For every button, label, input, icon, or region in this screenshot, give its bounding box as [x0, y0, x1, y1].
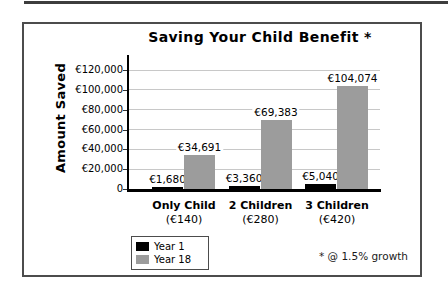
category-label: Only Child(€140) [152, 199, 215, 227]
y-tick-label: €120,000 [24, 64, 123, 76]
category-name: Only Child [152, 199, 215, 213]
y-tick-label: 0 [24, 183, 123, 195]
category-sublabel: (€140) [152, 213, 215, 227]
x-axis-line [127, 189, 381, 192]
legend: Year 1Year 18 [131, 236, 209, 270]
legend-row: Year 1 [136, 240, 204, 253]
bar-year-18 [261, 120, 292, 189]
y-tick-label: €80,000 [24, 104, 123, 116]
category-label: 3 Children(€420) [305, 199, 369, 227]
bar-year-18 [337, 86, 368, 189]
legend-swatch-icon [136, 255, 149, 264]
legend-label: Year 18 [154, 254, 191, 265]
growth-footnote: * @ 1.5% growth [319, 250, 408, 262]
y-axis-title: Amount Saved [53, 63, 68, 173]
page: Saving Your Child Benefit * Amount Saved… [0, 0, 448, 294]
legend-swatch-icon [136, 242, 149, 251]
category-label: 2 Children(€280) [229, 199, 293, 227]
legend-row: Year 18 [136, 253, 204, 266]
chart-frame: Saving Your Child Benefit * Amount Saved… [22, 22, 422, 277]
chart-title: Saving Your Child Benefit * [129, 29, 391, 45]
bar-value-label: €5,040 [300, 170, 341, 182]
y-tick-label: €20,000 [24, 163, 123, 175]
page-top-rule [24, 1, 448, 4]
bar-value-label: €1,680 [147, 173, 188, 185]
gridline [129, 70, 380, 71]
y-tick-label: €60,000 [24, 124, 123, 136]
y-tick-label: €100,000 [24, 84, 123, 96]
legend-label: Year 1 [154, 241, 185, 252]
category-sublabel: (€280) [229, 213, 293, 227]
category-name: 2 Children [229, 199, 293, 213]
bar-value-label: €34,691 [176, 141, 223, 153]
bar-value-label: €69,383 [252, 106, 299, 118]
y-axis-line [127, 55, 129, 191]
category-name: 3 Children [305, 199, 369, 213]
category-sublabel: (€420) [305, 213, 369, 227]
bar-value-label: €104,074 [325, 72, 379, 84]
bar-value-label: €3,360 [224, 172, 265, 184]
bar-year-18 [184, 155, 215, 189]
y-tick-label: €40,000 [24, 143, 123, 155]
